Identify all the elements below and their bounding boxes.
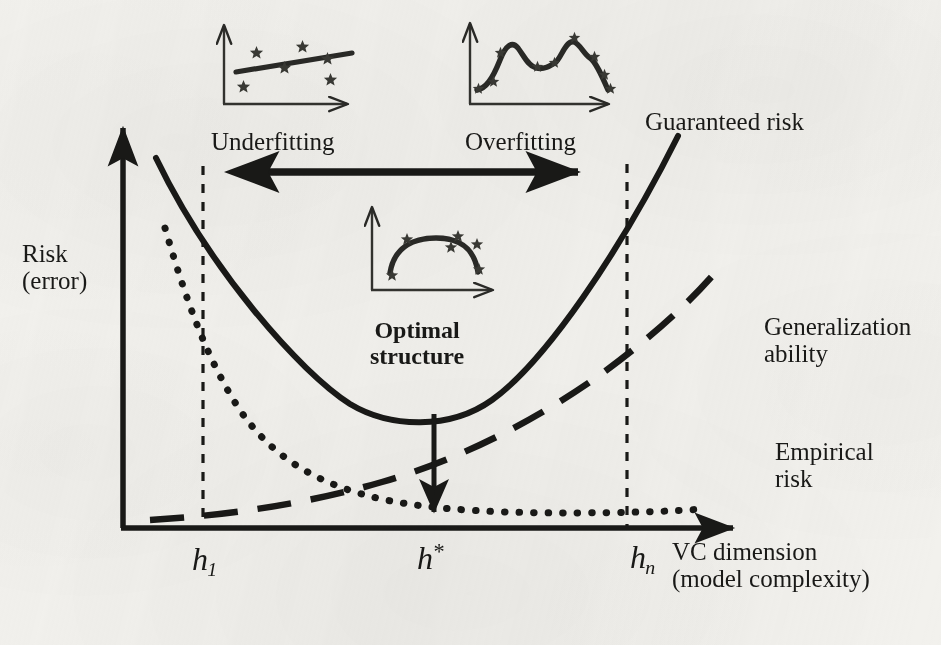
inset-optimal <box>371 208 492 290</box>
x-axis-label: VC dimension (model complexity) <box>672 538 870 592</box>
optimal-structure-line2: structure <box>370 344 464 370</box>
inset-underfitting-points <box>237 40 337 93</box>
inset-optimal-fit-curve <box>390 238 478 273</box>
y-axis-label-line1: Risk <box>22 240 87 267</box>
overfitting-label: Overfitting <box>465 128 576 155</box>
xtick-hstar-base: h <box>417 540 433 576</box>
generalization-ability-line2: ability <box>764 340 911 367</box>
xtick-h1-base: h <box>192 541 208 577</box>
xtick-hn-subscript: n <box>645 556 655 578</box>
figure-page: Risk (error) Underfitting Overfitting Gu… <box>0 0 941 645</box>
guaranteed-risk-curve <box>156 136 678 422</box>
x-axis-label-line1: VC dimension <box>672 538 870 565</box>
xtick-hn: hn <box>630 540 655 579</box>
empirical-risk-line2: risk <box>775 465 874 492</box>
xtick-hn-base: h <box>630 539 646 575</box>
inset-overfitting-fit-curve <box>477 42 608 90</box>
optimal-structure-line1: Optimal <box>370 318 464 344</box>
inset-overfitting <box>469 24 616 104</box>
generalization-ability-line1: Generalization <box>764 313 911 340</box>
xtick-h1-subscript: 1 <box>207 558 217 580</box>
y-axis-label: Risk (error) <box>22 240 87 294</box>
inset-underfitting <box>223 26 352 104</box>
empirical-risk-label: Empirical risk <box>775 438 874 492</box>
xtick-hstar-superscript: * <box>433 539 444 564</box>
underfitting-label: Underfitting <box>211 128 335 155</box>
y-axis-label-line2: (error) <box>22 267 87 294</box>
guaranteed-risk-label: Guaranteed risk <box>645 108 804 135</box>
empirical-risk-line1: Empirical <box>775 438 874 465</box>
generalization-ability-label: Generalization ability <box>764 313 911 367</box>
optimal-structure-label: Optimal structure <box>370 318 464 370</box>
xtick-h1: h1 <box>192 542 217 581</box>
x-axis-label-line2: (model complexity) <box>672 565 870 592</box>
xtick-hstar: h* <box>417 540 445 576</box>
